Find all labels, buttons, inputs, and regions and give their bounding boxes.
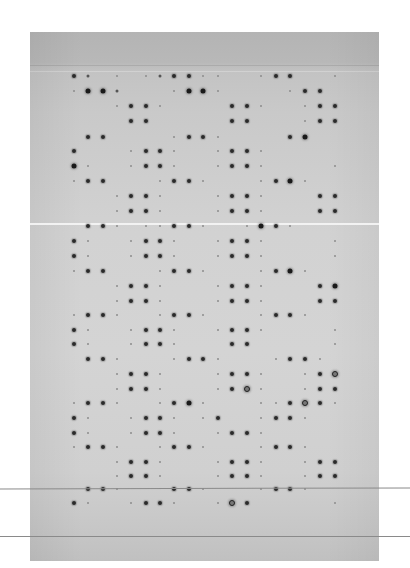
blot-spot: [72, 431, 76, 435]
blot-spot: [260, 402, 262, 404]
blot-spot: [230, 119, 234, 123]
blot-spot: [159, 195, 161, 197]
blot-spot: [116, 388, 118, 390]
blot-spot: [86, 89, 91, 94]
blot-spot: [101, 179, 105, 183]
blot-spot: [302, 400, 308, 406]
blot-spot: [333, 194, 337, 198]
blot-spot: [318, 104, 322, 108]
blot-spot: [116, 461, 118, 463]
blot-spot: [86, 179, 90, 183]
blot-spot: [116, 475, 118, 477]
blot-spot: [318, 284, 322, 288]
blot-spot: [173, 150, 175, 152]
blot-spot: [116, 195, 118, 197]
blot-spot: [333, 474, 337, 478]
blot-spot: [260, 388, 262, 390]
blot-spot: [260, 240, 262, 242]
blot-spot: [187, 74, 191, 78]
blot-spot: [217, 300, 219, 302]
blot-spot: [116, 402, 118, 404]
blot-spot: [101, 357, 105, 361]
blot-spot: [217, 240, 219, 242]
blot-spot: [230, 239, 234, 243]
blot-spot: [187, 224, 191, 228]
blot-spot: [260, 446, 262, 448]
blot-spot: [159, 402, 161, 404]
blot-spot: [187, 445, 191, 449]
blot-spot: [116, 225, 118, 227]
blot-spot: [245, 342, 249, 346]
blot-spot: [304, 270, 306, 272]
blot-spot: [86, 135, 90, 139]
blot-spot: [158, 254, 162, 258]
blot-spot: [334, 502, 336, 504]
blot-spot: [304, 388, 306, 390]
blot-spot: [173, 343, 175, 345]
blot-spot: [87, 240, 89, 242]
blot-spot: [144, 431, 148, 435]
blot-spot: [245, 254, 249, 258]
blot-spot: [87, 502, 89, 504]
blot-spot: [72, 74, 76, 78]
blot-spot: [318, 209, 322, 213]
blot-spot: [144, 328, 148, 332]
blot-spot: [318, 387, 322, 391]
blot-spot: [217, 75, 219, 77]
blot-spot: [130, 417, 132, 419]
blot-spot: [230, 460, 234, 464]
blot-spot: [274, 445, 278, 449]
blot-spot: [217, 502, 219, 504]
blot-spot: [101, 445, 105, 449]
blot-spot: [217, 195, 219, 197]
blot-spot: [260, 165, 262, 167]
blot-spot: [260, 195, 262, 197]
blot-spot: [288, 416, 292, 420]
blot-spot: [318, 460, 322, 464]
blot-spot: [159, 446, 161, 448]
blot-spot: [260, 210, 262, 212]
blot-spot: [116, 90, 119, 93]
blot-spot: [158, 416, 162, 420]
blot-spot: [129, 299, 133, 303]
blot-spot: [130, 329, 132, 331]
blot-spot: [288, 135, 292, 139]
blot-spot: [144, 104, 148, 108]
blot-spot: [87, 432, 89, 434]
blot-spot: [304, 446, 306, 448]
blot-spot: [217, 329, 219, 331]
blot-spot: [73, 180, 75, 182]
blot-spot: [217, 165, 219, 167]
blot-spot: [304, 105, 306, 107]
blot-spot: [144, 299, 148, 303]
blot-spot: [73, 314, 75, 316]
blot-spot: [159, 75, 162, 78]
blot-spot: [288, 269, 293, 274]
blot-spot: [202, 417, 204, 419]
blot-spot: [86, 224, 90, 228]
blot-spot: [73, 446, 75, 448]
blot-spot: [187, 313, 191, 317]
blot-spot: [86, 445, 90, 449]
blot-spot: [159, 285, 161, 287]
blot-spot: [304, 314, 306, 316]
blot-spot: [129, 387, 133, 391]
blot-spot: [260, 314, 262, 316]
blot-spot: [333, 119, 337, 123]
blot-spot: [259, 224, 264, 229]
blot-spot: [159, 210, 161, 212]
blot-spot: [72, 239, 76, 243]
blot-spot: [319, 358, 321, 360]
blot-spot: [275, 402, 277, 404]
blot-spot: [87, 255, 89, 257]
blot-spot: [245, 284, 249, 288]
blot-spot: [230, 164, 234, 168]
blot-spot: [245, 474, 249, 478]
blot-spot: [158, 328, 162, 332]
blot-spot: [187, 179, 191, 183]
blot-spot: [244, 386, 250, 392]
blot-spot: [318, 401, 322, 405]
blot-spot: [334, 343, 336, 345]
blot-spot: [130, 502, 132, 504]
blot-spot: [173, 255, 175, 257]
